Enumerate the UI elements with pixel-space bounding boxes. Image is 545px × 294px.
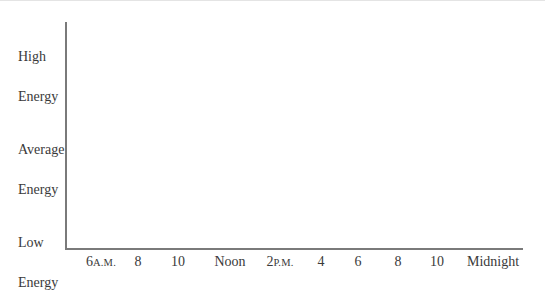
x-tick-2pm: 2P.M. (266, 253, 293, 272)
y-label-line: Energy (18, 87, 58, 107)
x-tick-midnight: Midnight (467, 253, 519, 271)
y-label-line: Average (18, 140, 64, 160)
x-tick-10am: 10 (171, 253, 185, 271)
x-tick-4pm: 4 (318, 253, 325, 271)
x-axis-line (65, 248, 523, 250)
y-axis-line (65, 22, 67, 249)
x-tick-num: 6 (86, 254, 93, 269)
x-tick-num: 10 (430, 254, 444, 269)
y-label-line: High (18, 47, 58, 67)
x-tick-num: 2 (266, 254, 273, 269)
x-tick-num: Midnight (467, 254, 519, 269)
x-tick-suffix: P.M. (273, 257, 293, 268)
x-tick-num: 8 (395, 254, 402, 269)
y-label-line: Energy (18, 273, 58, 293)
y-label-low-energy: Low Energy (18, 213, 58, 294)
x-tick-num: 10 (171, 254, 185, 269)
x-tick-num: 6 (355, 254, 362, 269)
x-tick-6pm: 6 (355, 253, 362, 271)
x-tick-8am: 8 (135, 253, 142, 271)
y-label-high-energy: High Energy (18, 27, 58, 127)
y-label-line: Energy (18, 180, 64, 200)
x-tick-num: 4 (318, 254, 325, 269)
x-tick-10pm: 10 (430, 253, 444, 271)
x-tick-6am: 6A.M. (86, 253, 116, 272)
x-tick-num: 8 (135, 254, 142, 269)
y-label-line: Low (18, 233, 58, 253)
x-tick-suffix: A.M. (93, 257, 116, 268)
x-tick-num: Noon (214, 254, 245, 269)
y-label-average-energy: Average Energy (18, 120, 64, 220)
x-tick-8pm: 8 (395, 253, 402, 271)
x-tick-noon: Noon (214, 253, 245, 271)
